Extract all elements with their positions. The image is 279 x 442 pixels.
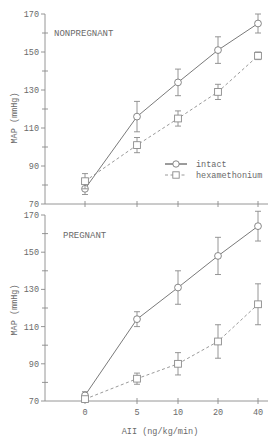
data-point-circle xyxy=(255,223,262,230)
x-tick-label: 0 xyxy=(82,408,87,418)
data-point-square xyxy=(82,396,89,403)
legend-circle-icon xyxy=(173,161,179,167)
legend-intact-label: intact xyxy=(196,160,227,170)
y-tick-label: 130 xyxy=(24,285,39,295)
data-point-circle xyxy=(175,79,182,86)
series-line-hexamethonium xyxy=(85,304,258,399)
data-point-square xyxy=(215,89,222,96)
series-bottom xyxy=(82,211,262,402)
y-tick-label: 150 xyxy=(24,248,39,258)
panel-nonpregnant: NONPREGNANT MAP (mmHg) 7090110130150170 … xyxy=(10,10,268,210)
panel-title-pregnant: PREGNANT xyxy=(63,231,107,241)
data-point-square xyxy=(134,142,141,149)
x-tick-label: 10 xyxy=(173,408,183,418)
x-tick-label: 40 xyxy=(253,408,263,418)
x-axis-label: AII (ng/kg/min) xyxy=(122,427,199,437)
panel-title-nonpregnant: NONPREGNANT xyxy=(54,29,114,39)
chart-figure: NONPREGNANT MAP (mmHg) 7090110130150170 … xyxy=(0,0,279,442)
data-point-circle xyxy=(215,47,222,54)
data-point-square xyxy=(82,178,89,185)
y-axis-label-bottom: MAP (mmHg) xyxy=(10,284,20,335)
legend-hexamethonium-label: hexamethonium xyxy=(196,171,262,181)
data-point-circle xyxy=(134,113,141,120)
y-tick-label: 170 xyxy=(24,10,39,20)
series-line-hexamethonium xyxy=(85,56,258,181)
data-point-square xyxy=(175,360,182,367)
legend: intact hexamethonium xyxy=(165,160,262,181)
y-tick-label: 90 xyxy=(29,360,39,370)
y-tick-label: 130 xyxy=(24,86,39,96)
legend-square-icon xyxy=(173,172,179,178)
y-tick-label: 70 xyxy=(29,397,39,407)
panel-pregnant: PREGNANT MAP (mmHg) 70901101301501700510… xyxy=(10,211,268,437)
data-point-square xyxy=(215,338,222,345)
data-point-square xyxy=(255,301,262,308)
axes-bottom: 709011013015017005102040 xyxy=(24,211,268,418)
series-top xyxy=(82,14,262,195)
data-point-circle xyxy=(175,284,182,291)
data-point-square xyxy=(134,375,141,382)
y-tick-label: 110 xyxy=(24,323,39,333)
data-point-square xyxy=(255,52,262,59)
y-tick-label: 70 xyxy=(29,200,39,210)
y-tick-label: 90 xyxy=(29,162,39,172)
data-point-circle xyxy=(255,20,262,27)
data-point-circle xyxy=(215,253,222,260)
y-tick-label: 110 xyxy=(24,124,39,134)
y-axis-label-top: MAP (mmHg) xyxy=(10,92,20,143)
data-point-square xyxy=(175,115,182,122)
y-tick-label: 150 xyxy=(24,48,39,58)
data-point-circle xyxy=(134,316,141,323)
x-tick-label: 5 xyxy=(134,408,139,418)
y-tick-label: 170 xyxy=(24,211,39,221)
x-tick-label: 20 xyxy=(213,408,223,418)
series-line-intact xyxy=(85,226,258,395)
